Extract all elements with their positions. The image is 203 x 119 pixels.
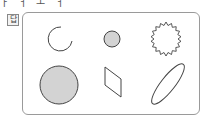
tilted-ellipse-shape [147,60,189,108]
shapes-canvas [0,0,203,119]
open-arc-shape [48,27,72,51]
large-filled-circle-shape [40,66,78,104]
rhombus-shape [105,67,121,97]
small-filled-circle-shape [104,31,120,47]
starburst-shape [151,22,181,56]
